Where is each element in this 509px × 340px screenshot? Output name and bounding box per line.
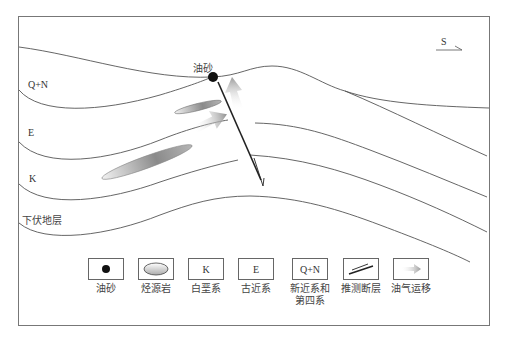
legend-label: 古近系: [226, 283, 286, 295]
stratum-label-k: K: [29, 173, 36, 184]
legend-box-e: E: [238, 258, 274, 280]
source-rock-ellipse-icon: [141, 261, 171, 277]
legend-box-source-rock: [138, 258, 174, 280]
strata-lines: [19, 47, 489, 262]
underlying-line: [19, 196, 470, 262]
direction-indicator: [436, 46, 462, 50]
legend-box-migration: [393, 258, 429, 280]
qn-base-line-right: [345, 91, 487, 156]
inferred-fault: [218, 82, 264, 186]
oil-sand-label: 油砂: [193, 60, 213, 75]
stratum-label-underlying: 下伏地层: [22, 212, 62, 227]
legend-box-k: K: [188, 258, 224, 280]
legend-item-paleogene: E 古近系: [226, 258, 286, 295]
stratum-label-qn: Q+N: [28, 79, 48, 90]
inferred-fault-icon: [346, 261, 376, 277]
direction-label: S: [441, 36, 447, 47]
stratum-label-e: E: [28, 127, 34, 138]
oil-sand-dot-icon: [100, 263, 112, 275]
surface-line: [19, 47, 489, 108]
legend-box-oil-sand: [88, 258, 124, 280]
legend-label: 油气运移: [381, 283, 441, 295]
legend-box-fault: [343, 258, 379, 280]
legend-box-qn: Q+N: [292, 258, 328, 280]
e-base-line-right: [255, 123, 487, 197]
source-rock-lower: [100, 140, 194, 184]
legend-item-migration: 油气运移: [381, 258, 441, 295]
migration-arrow-icon: [396, 261, 426, 277]
